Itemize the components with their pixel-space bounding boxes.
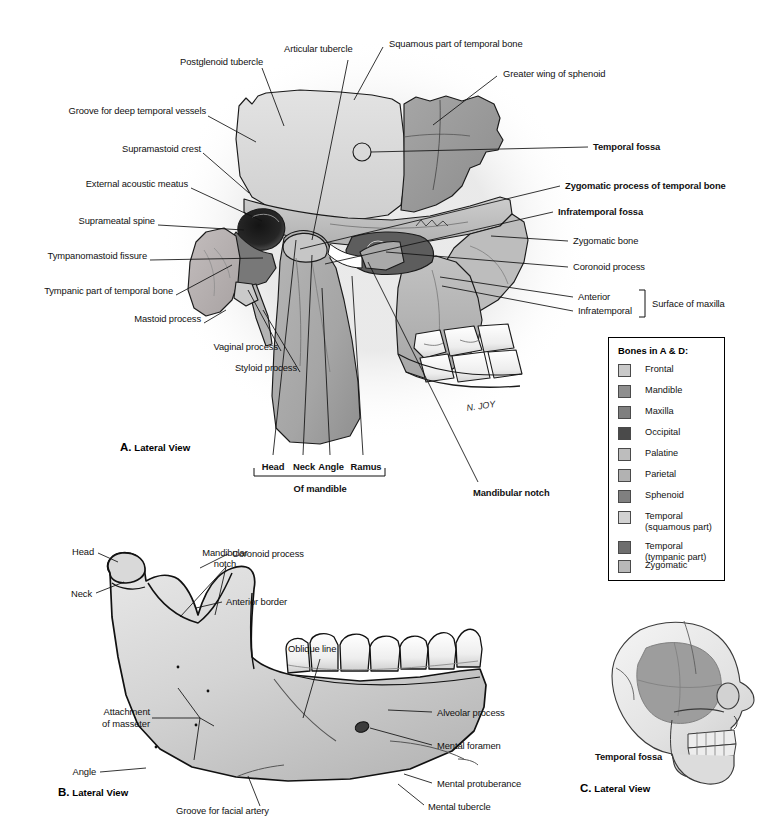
- legend-label-palatine: Palatine: [645, 448, 678, 459]
- legend-item-temporal-tympanic: Temporal (tympanic part): [618, 541, 706, 562]
- label-tympanomastoid-fissure: Tympanomastoid fissure: [2, 250, 147, 261]
- panel-a-caption: A. Lateral View: [120, 441, 190, 453]
- label-infratemporal-surface: Infratemporal: [578, 305, 632, 316]
- label-mastoid-process: Mastoid process: [42, 313, 201, 324]
- label-anterior-surface: Anterior: [578, 291, 610, 302]
- panel-b-illustration: [60, 545, 540, 835]
- label-surface-of-maxilla: Surface of maxilla: [652, 298, 725, 309]
- label-temporal-fossa-a: Temporal fossa: [593, 141, 660, 152]
- panel-c-caption: C. Lateral View: [580, 782, 650, 794]
- legend-label-sphenoid: Sphenoid: [645, 490, 684, 501]
- label-mental-foramen: Mental foramen: [437, 740, 501, 751]
- legend-title: Bones in A & D:: [618, 345, 688, 356]
- label-supramastoid-crest: Supramastoid crest: [26, 143, 201, 154]
- label-of-mandible: Of mandible: [259, 483, 381, 494]
- label-coronoid-process-b: Coronoid process: [232, 548, 304, 559]
- legend-label-maxilla: Maxilla: [645, 406, 674, 417]
- legend-swatch-zygomatic: [618, 560, 631, 573]
- legend-label-temporal-squamous: Temporal (squamous part): [645, 511, 712, 532]
- label-greater-wing-of-sphenoid: Greater wing of sphenoid: [503, 68, 605, 79]
- legend-item-palatine: Palatine: [618, 448, 678, 461]
- label-mental-protuberance: Mental protuberance: [437, 778, 521, 789]
- legend-swatch-sphenoid: [618, 490, 631, 503]
- figure-canvas: N. JOY: [0, 0, 779, 839]
- panel-c-letter: C.: [580, 782, 592, 794]
- label-zygomatic-bone: Zygomatic bone: [573, 235, 638, 246]
- legend-item-frontal: Frontal: [618, 364, 674, 377]
- legend-label-zygomatic: Zygomatic: [645, 560, 687, 571]
- label-groove-deep-temporal-vessels: Groove for deep temporal vessels: [26, 105, 206, 116]
- label-alveolar-process: Alveolar process: [437, 707, 505, 718]
- label-head-b: Head: [16, 546, 94, 557]
- label-temporal-fossa-c: Temporal fossa: [595, 751, 662, 762]
- panel-b-letter: B.: [58, 786, 70, 798]
- legend-label-temporal-tympanic: Temporal (tympanic part): [645, 541, 706, 562]
- panel-b-view-name: Lateral View: [72, 787, 128, 798]
- legend-swatch-temporal-squamous: [618, 511, 631, 524]
- legend-label-parietal: Parietal: [645, 469, 676, 480]
- label-vaginal-process: Vaginal process: [112, 341, 278, 352]
- panel-b-caption: B. Lateral View: [58, 786, 128, 798]
- legend-item-mandible: Mandible: [618, 385, 682, 398]
- label-infratemporal-fossa: Infratemporal fossa: [558, 206, 643, 217]
- label-zygomatic-process-temporal-bone: Zygomatic process of temporal bone: [565, 180, 726, 191]
- legend-swatch-parietal: [618, 469, 631, 482]
- bones-legend: Bones in A & D: Frontal Mandible Maxilla…: [608, 337, 725, 581]
- legend-item-parietal: Parietal: [618, 469, 676, 482]
- label-squamous-part-temporal-bone: Squamous part of temporal bone: [389, 38, 523, 49]
- label-anterior-border: Anterior border: [226, 596, 287, 607]
- label-oblique-line: Oblique line: [288, 643, 336, 654]
- legend-item-temporal-squamous: Temporal (squamous part): [618, 511, 712, 532]
- legend-label-frontal: Frontal: [645, 364, 674, 375]
- legend-swatch-palatine: [618, 448, 631, 461]
- panel-c-illustration: [576, 612, 779, 802]
- label-styloid-process: Styloid process: [132, 362, 297, 373]
- legend-swatch-frontal: [618, 364, 631, 377]
- label-coronoid-process-a: Coronoid process: [573, 261, 645, 272]
- legend-label-occipital: Occipital: [645, 427, 680, 438]
- legend-label-mandible: Mandible: [645, 385, 682, 396]
- label-mental-tubercle: Mental tubercle: [428, 801, 491, 812]
- panel-a-view-name: Lateral View: [134, 442, 190, 453]
- legend-item-zygomatic: Zygomatic: [618, 560, 687, 573]
- label-groove-for-facial-artery: Groove for facial artery: [176, 805, 269, 816]
- label-articular-tubercle: Articular tubercle: [284, 43, 353, 54]
- legend-item-maxilla: Maxilla: [618, 406, 674, 419]
- legend-swatch-occipital: [618, 427, 631, 440]
- legend-swatch-maxilla: [618, 406, 631, 419]
- panel-c-view-name: Lateral View: [594, 783, 650, 794]
- label-external-acoustic-meatus: External acoustic meatus: [16, 178, 188, 189]
- label-attachment-of-masseter: Attachment of masseter: [62, 706, 150, 730]
- legend-swatch-mandible: [618, 385, 631, 398]
- legend-swatch-temporal-tympanic: [618, 541, 631, 554]
- legend-item-occipital: Occipital: [618, 427, 680, 440]
- label-neck-b: Neck: [16, 588, 92, 599]
- label-ramus-a: Ramus: [339, 461, 393, 472]
- label-suprameatal-spine: Suprameatal spine: [10, 215, 155, 226]
- legend-item-sphenoid: Sphenoid: [618, 490, 684, 503]
- panel-a-letter: A.: [120, 441, 132, 453]
- label-tympanic-part-temporal-bone: Tympanic part of temporal bone: [2, 285, 173, 296]
- label-postglenoid-tubercle: Postglenoid tubercle: [46, 56, 263, 67]
- label-angle-b: Angle: [28, 766, 96, 777]
- label-mandibular-notch-a: Mandibular notch: [473, 487, 550, 498]
- label-attachment-of-masseter-text: Attachment of masseter: [102, 706, 150, 729]
